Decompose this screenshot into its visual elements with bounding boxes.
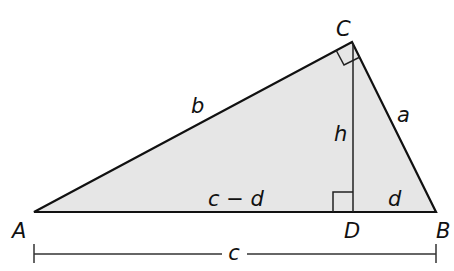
- vertex-label-a: A: [10, 219, 26, 243]
- segment-label-d: d: [388, 187, 402, 211]
- measure-label-c: c: [228, 241, 240, 265]
- vertex-label-c: C: [336, 17, 351, 41]
- side-label-a: a: [397, 103, 410, 127]
- segment-label-c-minus-d: c − d: [208, 187, 264, 211]
- vertex-label-b: B: [436, 219, 450, 243]
- triangle-diagram: C A D B b a h c − d d c: [0, 0, 454, 271]
- vertex-label-d: D: [344, 219, 360, 243]
- altitude-label-h: h: [334, 122, 347, 146]
- side-label-b: b: [191, 94, 204, 118]
